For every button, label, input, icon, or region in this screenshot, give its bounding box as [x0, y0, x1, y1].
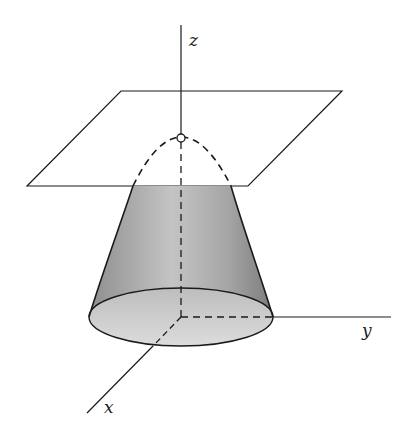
z-axis-label: z — [189, 32, 198, 49]
paraboloid-diagram — [0, 0, 410, 437]
hidden-parabola-curve — [133, 137, 231, 186]
diagram-canvas: z y x — [0, 0, 410, 437]
y-axis-label: y — [362, 322, 372, 339]
apex-point — [177, 134, 185, 142]
x-axis — [87, 346, 153, 413]
x-axis-label: x — [104, 399, 114, 416]
